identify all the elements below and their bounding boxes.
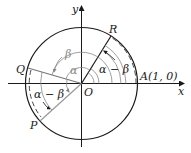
x-axis-label: x [178, 85, 185, 98]
y-axis-label: y [71, 3, 79, 16]
beta-arrow [54, 57, 62, 72]
alpha-label-left: α [70, 64, 78, 77]
origin-label: O [84, 86, 93, 99]
point-R-label: R [108, 23, 117, 36]
arc-alpha-inner [88, 73, 94, 84]
alpha-minus-beta-label-left: α − β [34, 88, 64, 101]
alpha-minus-beta-label-right: α − β [99, 63, 129, 76]
point-A-label: A(1, 0) [139, 70, 178, 83]
arc-small-left [66, 80, 69, 93]
beta-label: β [64, 48, 71, 61]
radius-OR [82, 36, 112, 84]
point-P-label: P [29, 119, 38, 132]
unit-circle-diagram: y x O R Q P A(1, 0) β α α − β α − β [0, 0, 191, 153]
point-Q-label: Q [16, 63, 25, 76]
